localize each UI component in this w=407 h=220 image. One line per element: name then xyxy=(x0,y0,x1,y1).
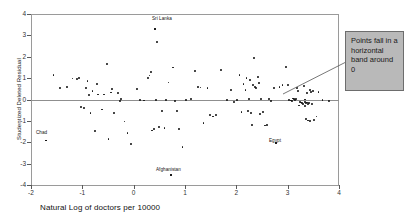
data-point xyxy=(258,82,260,84)
data-point xyxy=(88,94,90,96)
y-tick-mark xyxy=(27,142,31,143)
data-point xyxy=(295,98,297,100)
data-point xyxy=(220,69,222,71)
x-tick-label: 1 xyxy=(175,190,195,197)
data-point xyxy=(247,110,249,112)
data-point xyxy=(96,83,98,85)
data-point xyxy=(285,66,287,68)
data-point xyxy=(273,87,275,89)
data-point xyxy=(259,113,261,115)
y-tick-mark xyxy=(27,164,31,165)
data-point xyxy=(66,86,68,88)
data-point xyxy=(117,92,119,94)
data-point xyxy=(248,98,250,100)
data-point xyxy=(119,100,121,102)
data-point xyxy=(153,128,155,130)
data-point xyxy=(262,111,264,113)
data-point xyxy=(136,88,138,90)
data-point xyxy=(297,90,299,92)
x-axis-title: Natural Log of doctors per 10000 xyxy=(40,203,160,212)
y-tick-mark xyxy=(27,14,31,15)
data-point xyxy=(139,99,141,101)
y-tick-label: 0 xyxy=(0,97,26,104)
data-point xyxy=(178,128,180,130)
data-point xyxy=(304,105,306,107)
y-tick-label: 1 xyxy=(0,75,26,82)
data-point xyxy=(83,107,85,109)
data-point xyxy=(130,143,132,145)
data-point xyxy=(209,114,211,116)
data-point xyxy=(230,89,232,91)
y-tick-mark xyxy=(27,57,31,58)
data-point-labeled xyxy=(170,174,172,176)
y-tick-label: 3 xyxy=(0,32,26,39)
y-tick-label: -3 xyxy=(0,161,26,168)
y-tick-label: -2 xyxy=(0,139,26,146)
data-point xyxy=(185,99,187,101)
point-label-afghanistan: Afghanistan xyxy=(156,168,181,173)
data-point xyxy=(150,71,152,73)
data-point xyxy=(249,79,251,81)
data-point xyxy=(226,99,228,101)
x-tick-label: -2 xyxy=(21,190,41,197)
data-point xyxy=(147,77,149,79)
point-label-egypt: Egypt xyxy=(269,139,281,144)
data-point xyxy=(161,110,163,112)
data-point xyxy=(113,112,115,114)
y-tick-mark xyxy=(27,78,31,79)
data-point xyxy=(106,63,108,65)
data-point xyxy=(251,124,253,126)
y-axis-title: Studentized Deleted Residual xyxy=(16,34,22,164)
y-tick-mark xyxy=(27,100,31,101)
x-tick-label: 2 xyxy=(226,190,246,197)
data-point xyxy=(250,112,252,114)
data-point xyxy=(174,100,176,102)
point-label-sri-lanka: Sri Lanka xyxy=(152,17,172,22)
data-point xyxy=(80,106,82,108)
y-tick-label: -1 xyxy=(0,118,26,125)
point-label-chad: Chad xyxy=(36,131,47,136)
data-point xyxy=(85,87,87,89)
data-point xyxy=(260,98,262,100)
x-tick-label: -1 xyxy=(72,190,92,197)
data-point xyxy=(257,76,259,78)
scatter-plot-figure: -4-3-2-101234 -2-101234 Sri LankaChadAfg… xyxy=(0,0,407,220)
data-point xyxy=(328,100,330,102)
y-tick-label: 2 xyxy=(0,54,26,61)
y-tick-label: 4 xyxy=(0,11,26,18)
y-tick-mark xyxy=(27,35,31,36)
callout-annotation-box: Points fall in a horizontal band around … xyxy=(345,31,404,91)
data-point xyxy=(253,57,255,59)
data-point xyxy=(94,130,96,132)
data-point xyxy=(291,100,293,102)
data-point xyxy=(215,114,217,116)
x-tick-label: 3 xyxy=(278,190,298,197)
y-tick-label: -4 xyxy=(0,182,26,189)
x-tick-label: 4 xyxy=(329,190,349,197)
x-tick-label: 0 xyxy=(124,190,144,197)
data-point xyxy=(59,87,61,89)
data-point xyxy=(165,99,167,101)
y-tick-mark xyxy=(27,121,31,122)
data-point xyxy=(190,98,192,100)
data-point xyxy=(255,87,257,89)
